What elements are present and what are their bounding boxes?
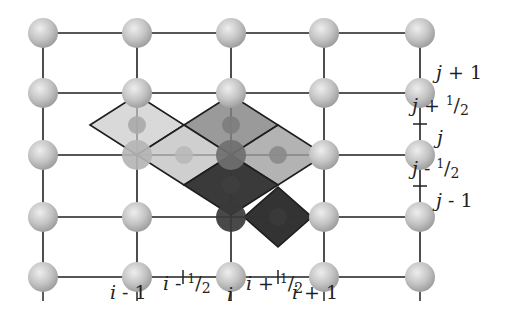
grid-node-icon bbox=[28, 78, 58, 108]
grid-node-icon bbox=[28, 262, 58, 292]
grid-node-icon bbox=[405, 18, 435, 48]
staggered-node-icon bbox=[269, 208, 287, 226]
x-index-label: i + 1 bbox=[292, 283, 338, 302]
grid-node-icon bbox=[216, 78, 246, 108]
x-index-label: i - 1 bbox=[110, 283, 147, 302]
x-index-label: i bbox=[227, 285, 233, 304]
staggered-node-icon bbox=[222, 116, 240, 134]
grid-node-icon bbox=[309, 202, 339, 232]
y-index-label: j + 1/2 bbox=[412, 95, 469, 117]
grid-node-icon bbox=[122, 202, 152, 232]
grid-node-icon bbox=[216, 202, 246, 232]
grid-node-icon bbox=[405, 262, 435, 292]
grid-node-icon bbox=[216, 140, 246, 170]
grid-node-icon bbox=[309, 78, 339, 108]
staggered-node-icon bbox=[269, 146, 287, 164]
grid-node-icon bbox=[122, 78, 152, 108]
staggered-node-icon bbox=[128, 116, 146, 134]
grid-node-icon bbox=[309, 18, 339, 48]
grid-node-icon bbox=[122, 18, 152, 48]
staggered-node-icon bbox=[222, 176, 240, 194]
grid-node-icon bbox=[28, 18, 58, 48]
staggered-node-icon bbox=[175, 146, 193, 164]
grid-node-icon bbox=[28, 202, 58, 232]
grid-node-icon bbox=[216, 18, 246, 48]
grid-node-icon bbox=[405, 202, 435, 232]
y-index-label: j bbox=[437, 128, 443, 147]
grid-node-icon bbox=[122, 140, 152, 170]
grid-node-icon bbox=[28, 140, 58, 170]
x-index-label: i - 1/2 bbox=[163, 273, 211, 295]
y-index-label: j + 1 bbox=[436, 63, 482, 82]
y-index-label: j - 1/2 bbox=[412, 158, 459, 180]
y-index-label: j - 1 bbox=[436, 191, 473, 210]
grid-node-icon bbox=[309, 140, 339, 170]
